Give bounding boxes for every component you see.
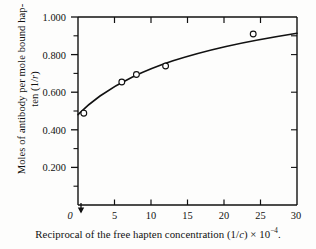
x-tick-label-10: 10 <box>146 210 156 221</box>
x-axis-bottom-ticks <box>115 200 261 206</box>
y-tick-label-1: 1.000 <box>43 12 66 23</box>
data-point-3 <box>134 72 140 78</box>
x-axis-top-ticks <box>115 17 261 23</box>
y-axis-major-ticks <box>71 17 78 167</box>
data-point-1 <box>81 110 87 116</box>
data-points <box>81 31 256 116</box>
y-tick-label-4: 0.400 <box>43 125 66 136</box>
x-tick-label-20: 20 <box>219 210 229 221</box>
x-tick-label-5: 5 <box>112 210 117 221</box>
y-tick-label-5: 0.200 <box>43 162 66 173</box>
y-tick-label-3: 0.600 <box>43 87 66 98</box>
right-axis-ticks <box>291 36 297 168</box>
x-tick-label-30: 30 <box>291 210 301 221</box>
x-tick-label-0: 0 <box>67 210 73 221</box>
data-point-2 <box>119 79 125 85</box>
y-tick-label-2: 0.800 <box>43 50 66 61</box>
axis-frame <box>78 17 297 205</box>
x-axis-tick-labels: 0 5 10 15 20 25 30 <box>67 210 301 221</box>
x-tick-label-25: 25 <box>255 210 265 221</box>
data-point-4 <box>163 63 169 69</box>
x-tick-label-15: 15 <box>182 210 192 221</box>
plot-canvas: 1.000 0.800 0.600 0.400 0.200 <box>0 0 316 249</box>
origin-arrow-head <box>78 208 84 214</box>
data-point-5 <box>250 31 256 37</box>
fitted-curve <box>78 33 297 114</box>
y-axis-tick-labels: 1.000 0.800 0.600 0.400 0.200 <box>43 12 66 173</box>
figure-container: Moles of antibody per mole bound hap- te… <box>0 0 316 249</box>
